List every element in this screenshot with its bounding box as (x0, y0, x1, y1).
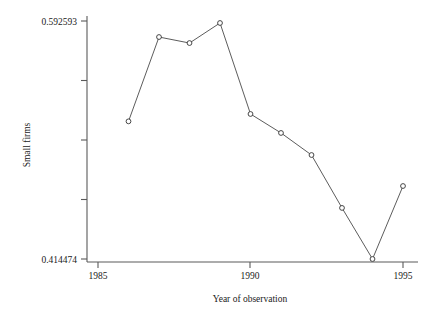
data-point (401, 184, 406, 189)
data-point (157, 35, 162, 40)
data-point (309, 153, 314, 158)
data-point (187, 41, 192, 46)
y-tick-label-max: 0.592593 (41, 17, 77, 27)
data-point (218, 21, 223, 26)
chart-container: 0.592593 0.414474 1985 1990 1995 Small f… (0, 0, 434, 316)
data-point (340, 206, 345, 211)
y-axis-ticks (81, 21, 87, 259)
x-tick-label-1995: 1995 (394, 271, 413, 281)
y-tick-label-min: 0.414474 (41, 255, 77, 265)
series-line-small-firms (129, 23, 404, 259)
x-tick-label-1990: 1990 (241, 271, 260, 281)
x-axis-title: Year of observation (213, 294, 288, 304)
data-point (279, 131, 284, 136)
data-point (248, 112, 253, 117)
x-tick-label-1985: 1985 (89, 271, 108, 281)
y-axis-title: Small firms (22, 122, 32, 167)
x-axis-ticks (98, 262, 403, 268)
series-markers (126, 21, 405, 262)
data-point (126, 119, 131, 124)
line-chart: 0.592593 0.414474 1985 1990 1995 Small f… (0, 0, 434, 316)
data-point (370, 257, 375, 262)
